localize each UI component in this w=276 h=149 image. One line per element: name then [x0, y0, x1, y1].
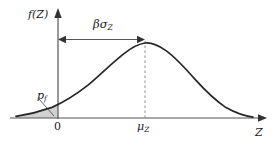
beta-sigma-text: βσ	[93, 17, 108, 31]
beta-sigma-label: βσZ	[93, 19, 113, 32]
origin-tick-label: 0	[54, 121, 61, 132]
normal-pdf-curve	[16, 43, 253, 117]
x-axis-label: Z	[255, 127, 263, 138]
failure-probability-text: p	[37, 89, 44, 102]
y-axis-arrowhead	[54, 8, 61, 18]
mean-subscript: Z	[144, 125, 149, 134]
beta-sigma-arrowhead-right	[137, 36, 145, 43]
failure-probability-subscript: f	[44, 94, 47, 103]
normal-distribution-figure: f(Z) βσZ pf 0 μZ Z	[0, 0, 276, 149]
mean-tick-label: μZ	[137, 121, 149, 133]
y-axis-label: f(Z)	[28, 9, 48, 20]
x-axis-arrowhead	[258, 114, 267, 122]
beta-sigma-subscript: Z	[108, 23, 113, 32]
failure-probability-label: pf	[37, 90, 47, 102]
beta-sigma-arrowhead-left	[58, 36, 66, 43]
